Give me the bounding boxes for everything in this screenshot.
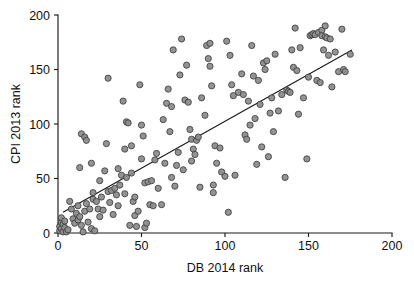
data-point — [62, 218, 68, 224]
data-point — [137, 82, 143, 88]
data-point — [120, 98, 126, 104]
data-point — [88, 160, 94, 166]
data-point — [67, 198, 73, 204]
data-point — [295, 111, 301, 117]
data-point — [249, 42, 255, 48]
data-point — [239, 71, 245, 77]
data-point — [180, 167, 186, 173]
data-point — [254, 161, 260, 167]
x-tick-label-200: 200 — [382, 239, 403, 253]
data-point — [138, 122, 144, 128]
data-point — [178, 36, 184, 42]
data-point — [300, 95, 306, 101]
data-point — [217, 145, 223, 151]
data-point — [97, 178, 103, 184]
data-point — [138, 156, 144, 162]
data-point — [289, 47, 295, 53]
data-point — [227, 52, 233, 58]
data-point — [77, 165, 83, 171]
data-point — [167, 129, 173, 135]
data-point — [347, 51, 353, 57]
data-point — [214, 160, 220, 166]
data-point — [195, 134, 201, 140]
data-point — [197, 184, 203, 190]
data-point — [75, 203, 81, 209]
data-point — [232, 172, 238, 178]
data-point — [210, 190, 216, 196]
data-point — [270, 129, 276, 135]
data-point — [105, 75, 111, 81]
x-tick-label-0: 0 — [55, 239, 62, 253]
data-point — [329, 84, 335, 90]
data-point — [122, 146, 128, 152]
data-point — [103, 141, 109, 147]
data-point — [135, 208, 141, 214]
data-point — [269, 95, 275, 101]
data-point — [65, 227, 71, 233]
plot-canvas: 050100150200050100150200DB 2014 rankCPI … — [0, 0, 414, 283]
data-point — [265, 154, 271, 160]
data-point — [304, 156, 310, 162]
data-point — [252, 115, 258, 121]
y-tick-label-0: 0 — [43, 227, 50, 241]
data-point — [113, 192, 119, 198]
data-point — [325, 52, 331, 58]
data-point — [97, 214, 103, 220]
data-point — [110, 211, 116, 217]
data-point — [168, 174, 174, 180]
data-point — [152, 157, 158, 163]
data-point — [202, 112, 208, 118]
data-point — [175, 149, 181, 155]
x-tick-label-150: 150 — [298, 239, 319, 253]
data-point — [207, 63, 213, 69]
data-point — [83, 137, 89, 143]
data-point — [125, 120, 131, 126]
data-point — [207, 40, 213, 46]
data-points-group — [57, 23, 354, 235]
data-point — [317, 79, 323, 85]
data-point — [305, 74, 311, 80]
data-point — [165, 86, 171, 92]
data-point — [117, 182, 123, 188]
data-point — [133, 223, 139, 229]
data-point — [262, 66, 268, 72]
x-tick-label-100: 100 — [215, 239, 236, 253]
data-point — [85, 219, 91, 225]
data-point — [107, 199, 113, 205]
data-point — [245, 98, 251, 104]
data-point — [128, 170, 134, 176]
data-point — [272, 51, 278, 57]
data-point — [247, 122, 253, 128]
data-point — [170, 47, 176, 53]
data-point — [143, 220, 149, 226]
data-point — [92, 228, 98, 234]
data-point — [115, 203, 121, 209]
data-point — [115, 166, 121, 172]
data-point — [255, 77, 261, 83]
data-point — [192, 151, 198, 157]
data-point — [320, 47, 326, 53]
data-point — [127, 222, 133, 228]
data-point — [187, 126, 193, 132]
data-point — [150, 203, 156, 209]
data-point — [287, 89, 293, 95]
data-point — [339, 26, 345, 32]
data-point — [183, 62, 189, 68]
data-point — [279, 91, 285, 97]
data-point — [257, 101, 263, 107]
data-point — [209, 83, 215, 89]
data-point — [185, 99, 191, 105]
data-point — [244, 136, 250, 142]
data-point — [205, 56, 211, 62]
x-tick-label-50: 50 — [135, 239, 149, 253]
data-point — [123, 174, 129, 180]
data-point — [189, 158, 195, 164]
data-point — [259, 144, 265, 150]
data-point — [297, 45, 303, 51]
data-point — [128, 143, 134, 149]
data-point — [322, 23, 328, 29]
data-point — [158, 202, 164, 208]
data-point — [342, 69, 348, 75]
data-point — [93, 198, 99, 204]
data-point — [224, 38, 230, 44]
